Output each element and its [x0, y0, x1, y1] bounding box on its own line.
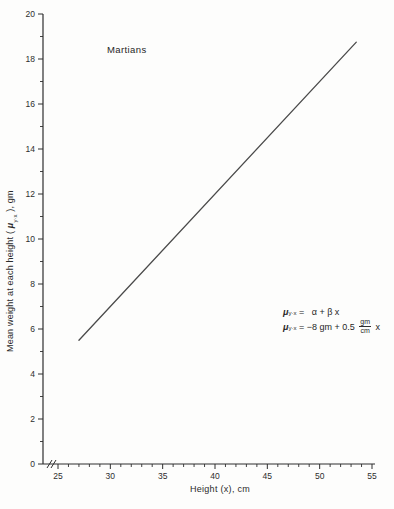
y-axis-title: Mean weight at each height ( μy·x ), gm — [5, 190, 17, 352]
mu-subscript: y·x — [12, 214, 18, 222]
y-tick-label: 12 — [26, 189, 36, 199]
gm-per-cm-fraction: gmcm — [359, 318, 371, 335]
y-axis-title-post: ), gm — [5, 190, 15, 214]
y-tick-label: 20 — [26, 9, 36, 19]
data-line-population-regression-line — [79, 42, 356, 340]
mu-subscript: y·x — [288, 310, 296, 316]
chart-title: Martians — [107, 44, 147, 55]
x-tick-label: 50 — [315, 471, 325, 481]
plot-svg: 2530354045505502468101214161820 — [0, 0, 394, 509]
y-tick-label: 16 — [26, 99, 36, 109]
fraction-denominator: cm — [359, 327, 370, 335]
y-tick-label: 2 — [30, 414, 35, 424]
mu-subscript: y·x — [288, 325, 296, 331]
equals-sign: = — [296, 322, 306, 332]
x-tick-label: 25 — [53, 471, 63, 481]
y-tick-label: 8 — [30, 279, 35, 289]
y-tick-label: 6 — [30, 324, 35, 334]
mu-symbol: μ — [5, 222, 15, 228]
x-tick-label: 30 — [106, 471, 116, 481]
y-tick-label: 10 — [26, 234, 36, 244]
equation-general-form: μy·x = α + β x — [283, 306, 380, 318]
equation-rhs-post: x — [373, 322, 380, 332]
x-tick-label: 55 — [367, 471, 377, 481]
equations-annotation: μy·x = α + β x μy·x = −8 gm + 0.5 gmcm x — [283, 306, 380, 335]
equation-fitted-form: μy·x = −8 gm + 0.5 gmcm x — [283, 318, 380, 335]
y-tick-label: 14 — [26, 144, 36, 154]
y-axis-title-pre: Mean weight at each height ( — [5, 228, 15, 352]
x-axis-title: Height (x), cm — [150, 484, 290, 494]
y-tick-label: 18 — [26, 54, 36, 64]
equals-sign: = — [296, 307, 306, 317]
y-tick-label: 0 — [30, 459, 35, 469]
x-tick-label: 45 — [263, 471, 273, 481]
x-tick-label: 40 — [210, 471, 220, 481]
equation-rhs: α + β x — [312, 307, 340, 317]
fraction-numerator: gm — [359, 318, 371, 327]
y-tick-label: 4 — [30, 369, 35, 379]
figure-canvas: 2530354045505502468101214161820 Martians… — [0, 0, 394, 509]
equation-rhs-pre: −8 gm + 0.5 — [307, 322, 358, 332]
x-tick-label: 35 — [158, 471, 168, 481]
